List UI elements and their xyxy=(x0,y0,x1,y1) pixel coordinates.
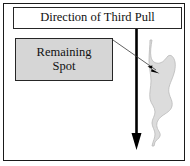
direction-of-third-pull-label-box: Direction of Third Pull xyxy=(13,7,182,29)
remaining-spot-shape xyxy=(149,40,175,146)
remaining-spot-label-line-2: Spot xyxy=(53,60,76,73)
direction-of-third-pull-label-text: Direction of Third Pull xyxy=(40,11,155,24)
remaining-spot-label-line-1: Remaining xyxy=(37,46,92,59)
remaining-spot-label-box: Remaining Spot xyxy=(15,38,113,81)
direction-of-third-pull-arrow-head xyxy=(132,133,142,150)
figure-root: Direction of Third Pull Remaining Spot xyxy=(0,0,190,166)
